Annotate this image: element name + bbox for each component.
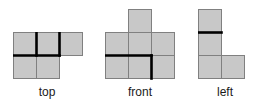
- top-view-grid: [13, 32, 85, 82]
- figure-top-view: [13, 32, 85, 82]
- figure-left-view: [198, 9, 247, 81]
- caption-front-view: front: [105, 85, 175, 99]
- left-view-cells: [199, 10, 245, 79]
- left-view-grid: [198, 9, 247, 81]
- caption-left-view: left: [195, 85, 255, 99]
- caption-top-view: top: [13, 85, 81, 99]
- front-view-grid: [105, 9, 177, 81]
- front-view-cells: [106, 10, 175, 79]
- figure-front-view: [105, 9, 177, 81]
